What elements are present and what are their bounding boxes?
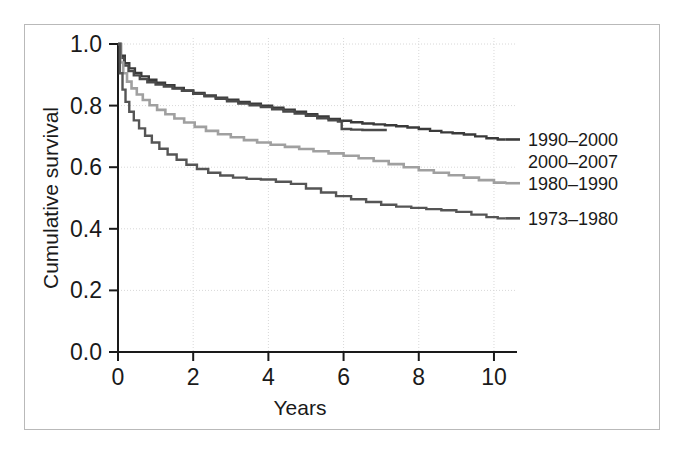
survival-curve (118, 44, 505, 139)
x-axis-tick-label: 0 (112, 364, 125, 390)
y-axis-tick-label: 0.4 (70, 216, 102, 242)
axes-group (118, 44, 517, 352)
data-curves-group (118, 44, 505, 218)
y-axis-tick-label: 0.0 (70, 339, 102, 365)
x-axis-tick-label: 6 (337, 364, 350, 390)
x-axis-title: Years (274, 396, 327, 419)
y-axis-tick-label: 0.8 (70, 93, 102, 119)
x-axis-tick-label: 2 (187, 364, 200, 390)
legend-group: 1990–20002000–20071980–19901973–1980 (505, 130, 618, 229)
x-axis-tick-label: 4 (262, 364, 275, 390)
y-axis-tick-label: 0.6 (70, 154, 102, 180)
survival-curve (118, 44, 505, 218)
figure-container: 02468100.00.20.40.60.81.0 1990–20002000–… (0, 0, 682, 458)
axis-ticks-group (109, 44, 494, 361)
x-axis-tick-label: 10 (481, 364, 507, 390)
survival-curve (118, 44, 387, 130)
x-axis-tick-label: 8 (412, 364, 425, 390)
gridlines-group (118, 38, 517, 352)
y-axis-title: Cumulative survival (39, 107, 62, 289)
y-axis-tick-label: 1.0 (70, 31, 102, 57)
survival-curve-chart: 02468100.00.20.40.60.81.0 1990–20002000–… (0, 0, 682, 458)
y-axis-tick-label: 0.2 (70, 277, 102, 303)
legend-label: 2000–2007 (528, 152, 618, 172)
legend-label: 1990–2000 (528, 130, 618, 150)
legend-label: 1980–1990 (528, 174, 618, 194)
legend-label: 1973–1980 (528, 209, 618, 229)
